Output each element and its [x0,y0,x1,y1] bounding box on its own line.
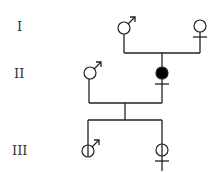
male-symbol-icon [128,17,135,24]
mating-line-gen2 [89,79,162,120]
individual-III-2-female-carrier [155,144,169,171]
individual-II-1-male [84,62,101,79]
individual-I-1-male [118,17,135,34]
male-symbol-icon [94,62,101,69]
mating-line-gen1 [124,34,200,67]
individual-III-1-male-carrier [82,140,99,157]
generation-label-1: I [17,19,22,34]
individual-II-2-female-affected [155,67,169,95]
individual-I-2-female [193,20,207,46]
generation-label-2: II [14,66,24,81]
pedigree-chart: I II III [0,0,221,173]
generation-label-3: III [12,143,27,158]
male-symbol-icon [92,140,99,147]
